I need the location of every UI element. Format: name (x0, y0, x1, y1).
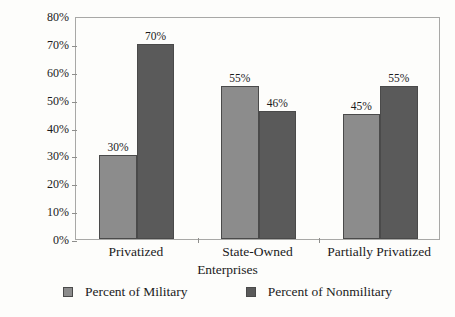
y-axis-tick-label: 60% (24, 65, 69, 80)
y-axis-tick-mark (72, 213, 77, 214)
bar-value-label: 46% (267, 97, 288, 109)
y-axis-tick-mark (72, 102, 77, 103)
y-axis-tick-label: 30% (24, 149, 69, 164)
legend-swatch-icon (63, 287, 73, 297)
y-axis-tick-mark (72, 157, 77, 158)
bar-value-label: 45% (351, 100, 372, 112)
y-axis-tick-label: 50% (24, 93, 69, 108)
bar-value-label: 30% (108, 141, 129, 153)
y-axis-tick-label: 80% (24, 10, 69, 25)
y-axis-tick-label: 20% (24, 177, 69, 192)
x-axis-category-label: State-Owned (222, 244, 292, 260)
y-axis-tick-mark (72, 46, 77, 47)
y-axis-tick-mark (72, 74, 77, 75)
y-axis-tick-label: 40% (24, 121, 69, 136)
legend-item: Percent of Nonmilitary (246, 284, 392, 300)
bar (99, 155, 137, 239)
x-axis-tick-mark (198, 238, 199, 243)
x-axis-category-label: Partially Privatized (327, 244, 431, 260)
y-axis-tick-mark (72, 130, 77, 131)
bar (221, 86, 259, 239)
bar-value-label: 70% (145, 30, 166, 42)
x-axis-tick-mark (319, 238, 320, 243)
x-axis-title: Enterprises (0, 262, 455, 278)
plot-area: 30%70%55%46%45%55% (75, 17, 440, 240)
legend-label: Percent of Military (85, 284, 188, 300)
bar (259, 111, 297, 239)
bar (137, 44, 175, 239)
bar-value-label: 55% (388, 72, 409, 84)
legend-label: Percent of Nonmilitary (268, 284, 392, 300)
bar (343, 114, 381, 239)
y-axis-tick-mark (72, 241, 77, 242)
y-axis-tick-label: 70% (24, 37, 69, 52)
bar (380, 86, 418, 239)
bar-value-label: 55% (229, 72, 250, 84)
y-axis-tick-label: 10% (24, 205, 69, 220)
x-axis-category-label: Privatized (108, 244, 163, 260)
legend-item: Percent of Military (63, 284, 188, 300)
y-axis-tick-mark (72, 185, 77, 186)
bar-chart-figure: Top Personnel in SOEs 0%10%20%30%40%50%6… (0, 0, 455, 317)
x-axis-category-labels: PrivatizedState-OwnedPartially Privatize… (75, 244, 440, 264)
legend-swatch-icon (246, 287, 256, 297)
chart-legend: Percent of MilitaryPercent of Nonmilitar… (0, 284, 455, 300)
y-axis-tick-label: 0% (24, 233, 69, 248)
